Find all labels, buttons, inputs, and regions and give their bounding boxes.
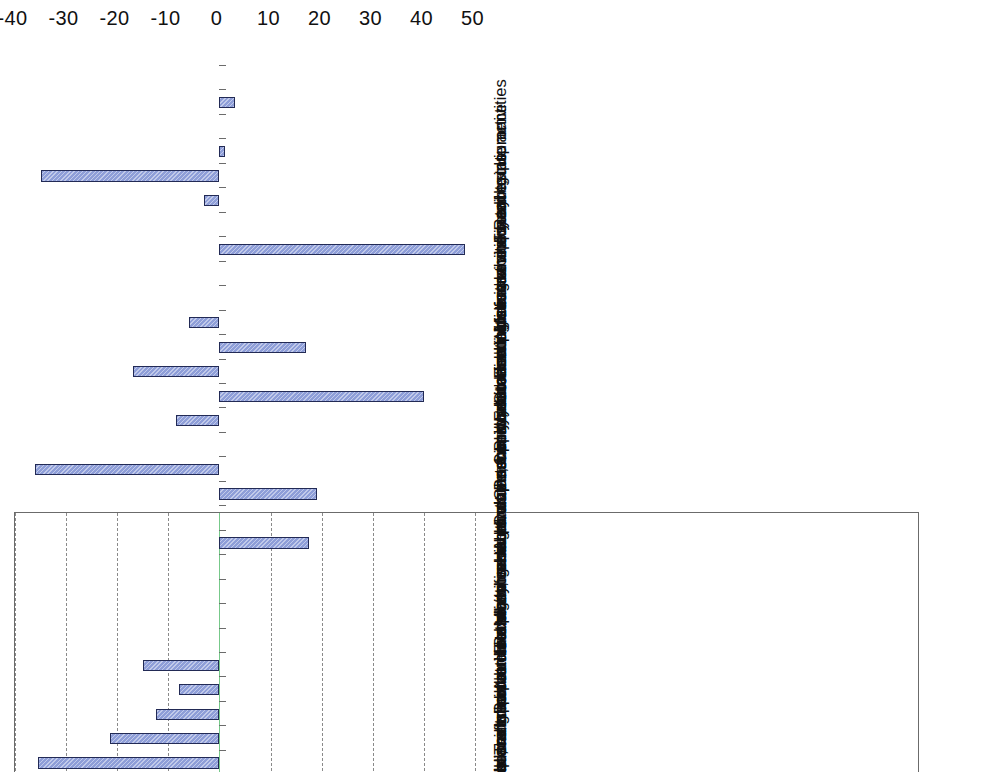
bar [204, 195, 219, 206]
bar [176, 415, 219, 426]
bar [110, 733, 220, 744]
category-tick [219, 603, 226, 604]
value-tick-label: 20 [296, 7, 342, 30]
category-tick [219, 407, 226, 408]
gridline [475, 513, 476, 772]
bar [219, 537, 308, 548]
category-tick [219, 310, 226, 311]
value-tick-label: 0 [194, 7, 240, 30]
category-tick [219, 750, 226, 751]
bar [219, 146, 224, 157]
category-tick [219, 261, 226, 262]
bar [219, 391, 423, 402]
bar [35, 464, 219, 475]
category-tick [219, 652, 226, 653]
category-tick [219, 334, 226, 335]
bar [179, 684, 220, 695]
bar [219, 244, 464, 255]
value-tick-label: -10 [143, 7, 189, 30]
bar [38, 757, 219, 768]
value-tick-label: -30 [41, 7, 87, 30]
bar [189, 317, 220, 328]
bar [143, 660, 220, 671]
value-tick-label: 30 [347, 7, 393, 30]
plot-area [14, 512, 919, 772]
category-tick [219, 456, 226, 457]
category-tick [219, 725, 226, 726]
figure-inner: -40-30-20-1001020304050 Radio, TV, commu… [0, 212, 984, 772]
gridline [424, 513, 425, 772]
category-tick [219, 187, 226, 188]
bar [156, 709, 220, 720]
gridline [271, 513, 272, 772]
category-tick [219, 285, 226, 286]
category-tick [219, 481, 226, 482]
rotated-figure: -40-30-20-1001020304050 Radio, TV, commu… [0, 212, 984, 772]
bar [133, 366, 220, 377]
value-tick-label: 40 [398, 7, 444, 30]
value-tick-label: -20 [92, 7, 138, 30]
category-tick [219, 579, 226, 580]
value-tick-label: 10 [245, 7, 291, 30]
category-tick [219, 701, 226, 702]
bar [41, 170, 220, 181]
category-tick [219, 114, 226, 115]
category-tick [219, 554, 226, 555]
category-tick [219, 383, 226, 384]
gridline [322, 513, 323, 772]
value-tick-label: 50 [450, 7, 496, 30]
category-tick [219, 628, 226, 629]
category-tick [219, 677, 226, 678]
category-tick [219, 138, 226, 139]
category-tick [219, 432, 226, 433]
gridline [373, 513, 374, 772]
gridline [15, 513, 16, 772]
value-tick-label: -40 [0, 7, 36, 30]
bar [219, 342, 306, 353]
category-tick [219, 530, 226, 531]
bar [219, 97, 234, 108]
gridline [66, 513, 67, 772]
category-label: Real estate activities [492, 79, 509, 329]
category-tick [219, 505, 226, 506]
category-tick [219, 212, 226, 213]
category-tick [219, 89, 226, 90]
bar [219, 488, 316, 499]
category-tick [219, 359, 226, 360]
category-tick [219, 163, 226, 164]
zero-line [219, 513, 220, 772]
category-tick [219, 65, 226, 66]
category-tick [219, 236, 226, 237]
